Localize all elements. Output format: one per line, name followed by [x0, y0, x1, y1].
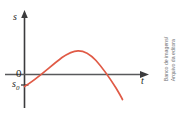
- image-credit-line-1: Banco de imagens/: [163, 37, 170, 81]
- initial-position-subscript: 0: [16, 84, 20, 92]
- graph-figure: s t 0 s0 Banco de imagens/ Arquivo da ed…: [0, 0, 184, 118]
- image-credit-line-2: Arquivo da editora: [170, 37, 177, 81]
- s-axis-label: s: [13, 12, 17, 22]
- origin-label: 0: [16, 68, 22, 79]
- t-axis-label: t: [141, 76, 144, 86]
- image-credit: Banco de imagens/ Arquivo da editora: [157, 0, 183, 118]
- initial-position-label: s0: [12, 79, 19, 92]
- s-axis-arrowhead: [21, 10, 28, 18]
